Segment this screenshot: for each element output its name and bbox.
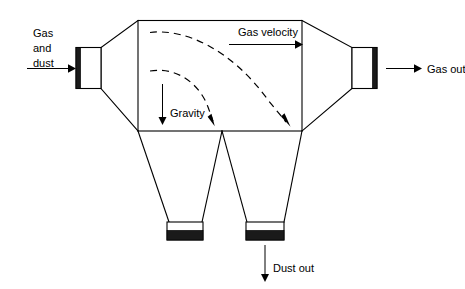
left-hopper-inner-wall [202,131,222,222]
outlet-flange-band [373,48,378,89]
right-hopper-outer-wall [284,131,302,222]
outlet-contraction-cone [302,21,352,132]
left-hopper-outer-wall [138,131,169,222]
dust-out-label: Dust out [273,262,314,274]
inlet-label-line2: and [33,42,51,54]
right-hopper-flange-band [246,231,284,241]
settling-chamber-drawing: Gas and dust Gas velocity Gravity Gas ou… [0,0,465,289]
right-hopper-inner-wall [222,131,247,222]
gas-out-arrow-head [414,64,422,73]
dust-out-arrow-head [261,274,269,282]
inlet-expansion-cone [101,21,138,132]
gas-velocity-label: Gas velocity [238,26,298,38]
inlet-flange-band [76,48,81,89]
left-hopper-flange-band [167,231,203,241]
inlet-label-line3: dust [33,57,54,69]
inlet-arrow-head [68,64,76,73]
gas-out-label: Gas out [427,63,465,75]
inlet-label-line1: Gas [33,27,54,39]
gravity-label: Gravity [170,107,205,119]
settling-chamber-diagram: Gas and dust Gas velocity Gravity Gas ou… [0,0,465,289]
